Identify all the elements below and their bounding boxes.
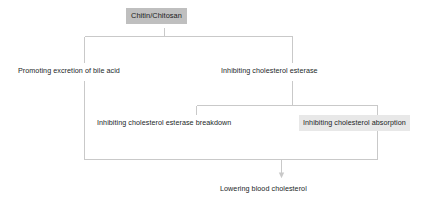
node-chitin-chitosan[interactable]: Chitin/Chitosan [126,8,187,24]
flowchart-diagram: Chitin/Chitosan Promoting excretion of b… [0,0,444,203]
node-inhibiting-cholesterol-esterase-breakdown[interactable]: Inhibiting cholesterol esterase breakdow… [97,117,231,128]
node-inhibiting-cholesterol-esterase[interactable]: Inhibiting cholesterol esterase [221,65,318,76]
connector-lines [0,0,444,203]
node-promoting-excretion-of-bile-acid[interactable]: Promoting excretion of bile acid [18,65,120,76]
node-inhibiting-cholesterol-absorption[interactable]: Inhibiting cholesterol absorption [299,115,410,131]
node-lowering-blood-cholesterol[interactable]: Lowering blood cholesterol [220,183,307,194]
arrowhead-icon [279,173,284,179]
